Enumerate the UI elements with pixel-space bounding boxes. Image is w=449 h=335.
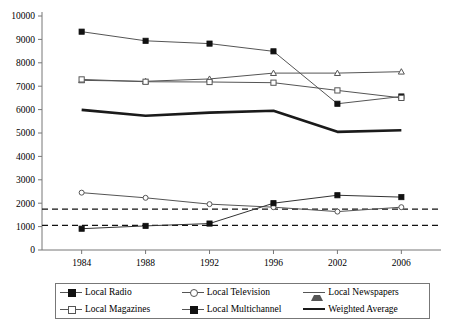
series-local-radio — [79, 29, 404, 106]
legend-item-weighted-average[interactable]: Weighted Average — [303, 301, 425, 318]
series-line — [82, 79, 402, 97]
x-axis-tick-label: 2002 — [328, 258, 347, 268]
filled-square-marker-icon — [182, 304, 204, 315]
x-axis-tick-label: 2006 — [392, 258, 411, 268]
data-point — [79, 29, 84, 34]
open-circle-marker-icon — [182, 287, 204, 298]
data-point — [271, 49, 276, 54]
y-axis-tick-label: 10000 — [11, 11, 35, 21]
legend-label-local-newspapers: Local Newspapers — [328, 288, 398, 298]
data-point — [79, 226, 84, 231]
legend-label-local-magazines: Local Magazines — [85, 305, 150, 315]
data-point — [271, 80, 276, 85]
chart-legend: Local Radio Local Television Local Newsp… — [55, 283, 430, 319]
plot-area: 0100020003000400050006000700080009000100… — [0, 0, 449, 280]
y-axis-tick-label: 9000 — [16, 35, 35, 45]
x-axis-tick-label: 1988 — [136, 258, 155, 268]
data-point — [399, 205, 404, 210]
legend-item-local-television[interactable]: Local Television — [182, 284, 304, 301]
data-point — [207, 202, 212, 207]
legend-label-weighted-average: Weighted Average — [328, 305, 398, 315]
open-square-marker-icon — [60, 304, 82, 315]
x-axis-tick-label: 1992 — [200, 258, 219, 268]
data-point — [335, 88, 340, 93]
legend-item-local-radio[interactable]: Local Radio — [60, 284, 182, 301]
legend-label-local-radio: Local Radio — [85, 288, 132, 298]
triangle-marker-icon — [303, 287, 325, 298]
y-axis-tick-label: 8000 — [16, 58, 35, 68]
data-point — [143, 223, 148, 228]
legend-item-local-newspapers[interactable]: Local Newspapers — [303, 284, 425, 301]
y-axis-tick-label: 3000 — [16, 175, 35, 185]
data-point — [143, 195, 148, 200]
y-axis-tick-label: 2000 — [16, 199, 35, 209]
y-axis-tick-label: 1000 — [16, 222, 35, 232]
series-line — [82, 72, 402, 82]
filled-square-marker-icon — [60, 287, 82, 298]
data-point — [335, 209, 340, 214]
y-axis-tick-label: 4000 — [16, 152, 35, 162]
y-axis-tick-label: 6000 — [16, 105, 35, 115]
legend-item-local-magazines[interactable]: Local Magazines — [60, 301, 182, 318]
y-axis-tick-label: 0 — [30, 245, 35, 255]
data-point — [143, 79, 148, 84]
series-line — [82, 110, 402, 132]
data-point — [335, 193, 340, 198]
y-axis-tick-label: 7000 — [16, 82, 35, 92]
series-line — [82, 32, 402, 104]
y-axis-tick-label: 5000 — [16, 128, 35, 138]
data-point — [79, 77, 84, 82]
series-local-magazines — [79, 77, 404, 101]
data-point — [79, 190, 84, 195]
data-point — [207, 79, 212, 84]
x-axis-tick-label: 1996 — [264, 258, 283, 268]
line-chart-svg: 0100020003000400050006000700080009000100… — [0, 0, 449, 280]
series-local-television — [79, 190, 404, 214]
data-point — [207, 41, 212, 46]
legend-label-local-multichannel: Local Multichannel — [207, 305, 282, 315]
thick-line-marker-icon — [303, 304, 325, 315]
data-point — [399, 195, 404, 200]
legend-item-local-multichannel[interactable]: Local Multichannel — [182, 301, 304, 318]
data-point — [335, 101, 340, 106]
legend-label-local-television: Local Television — [207, 288, 270, 298]
data-point — [271, 201, 276, 206]
data-point — [207, 221, 212, 226]
x-axis-tick-label: 1984 — [72, 258, 91, 268]
series-weighted-average — [82, 110, 402, 132]
chart-figure: 0100020003000400050006000700080009000100… — [0, 0, 449, 335]
data-point — [143, 38, 148, 43]
data-point — [399, 95, 404, 100]
series-line — [82, 195, 402, 228]
